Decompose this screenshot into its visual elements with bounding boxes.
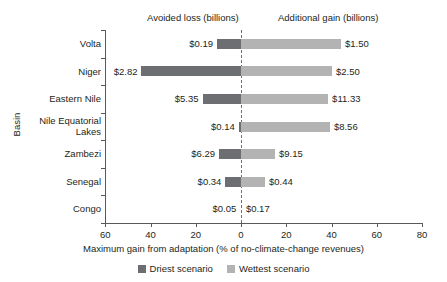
x-axis-tick-mark bbox=[332, 223, 333, 227]
bar-row: Volta$0.19$1.50 bbox=[105, 30, 422, 58]
value-label-driest: $0.34 bbox=[161, 176, 221, 187]
bar-row: Congo$0.05$0.17 bbox=[105, 195, 422, 223]
legend-item: Driest scenario bbox=[138, 263, 213, 274]
category-label-volta: Volta bbox=[0, 38, 101, 49]
x-axis-tick-label: 80 bbox=[407, 229, 437, 240]
x-axis-tick-mark bbox=[105, 223, 106, 227]
bar-row: Senegal$0.34$0.44 bbox=[105, 168, 422, 196]
value-label-driest: $0.05 bbox=[176, 203, 236, 214]
bar-row: Nile Equatorial Lakes$0.14$8.56 bbox=[105, 113, 422, 141]
legend-swatch-icon bbox=[138, 265, 146, 273]
additional-gain-header: Additional gain (billions) bbox=[278, 12, 378, 23]
y-axis-tick bbox=[101, 30, 105, 31]
x-axis-tick-label: 60 bbox=[362, 229, 392, 240]
bar-driest bbox=[217, 39, 241, 49]
x-axis-tick-mark bbox=[377, 223, 378, 227]
bar-driest bbox=[219, 149, 241, 159]
value-label-wettest: $0.44 bbox=[269, 176, 293, 187]
value-label-wettest: $11.33 bbox=[332, 93, 360, 104]
y-axis-tick bbox=[101, 223, 105, 224]
bar-driest bbox=[203, 94, 241, 104]
value-label-driest: $5.35 bbox=[139, 93, 199, 104]
x-axis-tick-label: 60 bbox=[90, 229, 120, 240]
bar-driest bbox=[225, 177, 241, 187]
value-label-wettest: $0.17 bbox=[246, 203, 270, 214]
x-axis-title: Maximum gain from adaptation (% of no-cl… bbox=[0, 243, 447, 254]
bar-wettest bbox=[241, 149, 275, 159]
category-label-eastern-nile: Eastern Nile bbox=[0, 93, 101, 104]
x-axis-tick-mark bbox=[422, 223, 423, 227]
legend-swatch-icon bbox=[227, 265, 235, 273]
y-axis-tick bbox=[101, 113, 105, 114]
x-axis-spine bbox=[105, 223, 422, 224]
bar-row: Eastern Nile$5.35$11.33 bbox=[105, 85, 422, 113]
bar-wettest bbox=[241, 177, 265, 187]
chart-legend: Driest scenarioWettest scenario bbox=[0, 263, 447, 274]
chart-container: Avoided loss (billions) Additional gain … bbox=[0, 0, 447, 282]
value-label-wettest: $2.50 bbox=[336, 66, 360, 77]
bar-driest bbox=[141, 66, 241, 76]
value-label-driest: $2.82 bbox=[77, 66, 137, 77]
x-axis-tick-label: 20 bbox=[181, 229, 211, 240]
x-axis-tick-mark bbox=[241, 223, 242, 227]
y-axis-tick bbox=[101, 58, 105, 59]
category-label-congo: Congo bbox=[0, 203, 101, 214]
value-label-wettest: $8.56 bbox=[334, 121, 358, 132]
x-axis-tick-mark bbox=[196, 223, 197, 227]
category-label-nile-equatorial: Nile Equatorial Lakes bbox=[0, 115, 101, 137]
y-axis-tick bbox=[101, 195, 105, 196]
value-label-driest: $6.29 bbox=[155, 148, 215, 159]
value-label-wettest: $9.15 bbox=[279, 148, 303, 159]
y-axis-tick bbox=[101, 85, 105, 86]
plot-area: Volta$0.19$1.50Niger$2.82$2.50Eastern Ni… bbox=[105, 30, 422, 223]
x-axis-tick-mark bbox=[286, 223, 287, 227]
category-label-senegal: Senegal bbox=[0, 176, 101, 187]
y-axis-tick bbox=[101, 140, 105, 141]
legend-label: Driest scenario bbox=[150, 263, 213, 274]
category-label-zambezi: Zambezi bbox=[0, 148, 101, 159]
legend-item: Wettest scenario bbox=[227, 263, 310, 274]
value-label-wettest: $1.50 bbox=[345, 38, 369, 49]
legend-label: Wettest scenario bbox=[239, 263, 310, 274]
bar-wettest bbox=[241, 66, 332, 76]
bar-row: Niger$2.82$2.50 bbox=[105, 58, 422, 86]
x-axis-tick-label: 40 bbox=[136, 229, 166, 240]
bar-row: Zambezi$6.29$9.15 bbox=[105, 140, 422, 168]
value-label-driest: $0.14 bbox=[175, 121, 235, 132]
bar-wettest bbox=[241, 94, 328, 104]
x-axis-tick-label: 40 bbox=[317, 229, 347, 240]
y-axis-tick bbox=[101, 168, 105, 169]
value-label-driest: $0.19 bbox=[153, 38, 213, 49]
bar-wettest bbox=[241, 122, 330, 132]
avoided-loss-header: Avoided loss (billions) bbox=[147, 12, 239, 23]
x-axis-tick-label: 20 bbox=[271, 229, 301, 240]
x-axis-tick-label: 0 bbox=[226, 229, 256, 240]
bar-wettest bbox=[241, 39, 341, 49]
x-axis-tick-mark bbox=[151, 223, 152, 227]
